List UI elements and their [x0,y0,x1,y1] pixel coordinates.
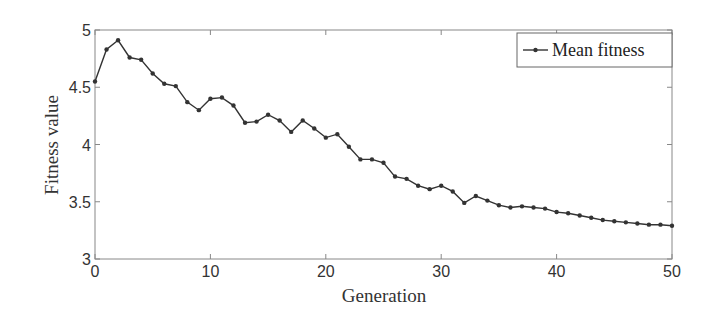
y-axis-title: Fitness value [41,95,62,195]
data-point [520,204,524,208]
data-point [439,184,443,188]
data-point [335,132,339,136]
data-point [139,58,143,62]
data-point [231,103,235,107]
data-point [404,177,408,181]
legend-label: Mean fitness [552,40,644,60]
data-point [462,201,466,205]
data-point [208,97,212,101]
data-point [497,203,501,207]
data-point [670,224,674,228]
data-point [324,135,328,139]
y-tick-label: 3.5 [69,194,91,211]
data-point [174,84,178,88]
y-tick-label: 4.5 [69,79,91,96]
data-point [151,71,155,75]
legend: Mean fitness [517,33,672,67]
x-tick-label: 50 [663,263,681,280]
data-point [277,118,281,122]
x-tick-label: 40 [548,263,566,280]
legend-marker-icon [533,48,537,52]
data-point [577,213,581,217]
data-point [624,220,628,224]
data-point [647,222,651,226]
x-tick-label: 0 [91,263,100,280]
data-point [162,82,166,86]
data-point [612,219,616,223]
data-point [393,174,397,178]
data-point [243,121,247,125]
data-point [104,47,108,51]
data-point [93,79,97,83]
x-tick-label: 10 [202,263,220,280]
data-point [589,216,593,220]
data-point [485,198,489,202]
data-point [474,194,478,198]
x-tick-label: 20 [317,263,335,280]
data-point [531,205,535,209]
data-point [289,130,293,134]
data-point [381,161,385,165]
data-point [116,38,120,42]
data-point [370,157,374,161]
x-tick-label: 30 [432,263,450,280]
data-point [220,95,224,99]
data-point [427,187,431,191]
data-point [347,145,351,149]
y-tick-label: 5 [82,22,91,39]
data-point [185,100,189,104]
data-point [543,206,547,210]
data-point [266,113,270,117]
data-point [127,55,131,59]
data-point [508,205,512,209]
x-axis-title: Generation [342,285,427,306]
data-point [254,119,258,123]
data-point [301,118,305,122]
data-point [416,184,420,188]
data-point [566,211,570,215]
data-point [554,210,558,214]
data-point [601,218,605,222]
y-tick-label: 4 [82,137,91,154]
data-point [635,221,639,225]
data-point [658,222,662,226]
line-chart: 33.544.55 01020304050 Fitness value Gene… [0,0,715,311]
data-point [312,126,316,130]
data-point [197,108,201,112]
data-point [358,157,362,161]
data-point [451,189,455,193]
